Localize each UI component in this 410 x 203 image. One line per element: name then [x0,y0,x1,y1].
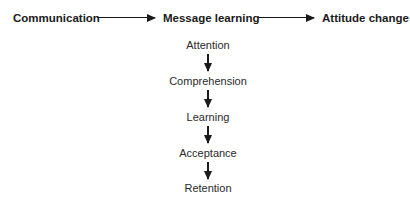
stage-retention: Retention [0,182,410,195]
stage-comprehension: Comprehension [0,75,410,88]
arrow-right-icon [258,17,314,18]
stage-acceptance: Acceptance [0,147,410,160]
node-message-learning: Message learning [163,11,260,25]
stage-learning: Learning [0,111,410,124]
node-communication: Communication [13,11,100,25]
stage-attention: Attention [0,39,410,52]
arrow-right-icon [97,17,155,18]
arrow-down-icon [207,162,209,179]
arrow-down-icon [207,54,209,71]
node-attitude-change: Attitude change [322,11,409,25]
arrow-down-icon [207,90,209,107]
arrow-down-icon [207,126,209,143]
